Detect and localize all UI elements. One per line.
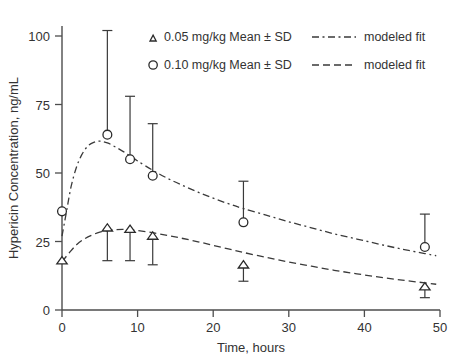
legend: 0.05 mg/kg Mean ± SD modeled fit 0.10 mg… — [149, 30, 426, 72]
legend-label-1: 0.10 mg/kg Mean ± SD — [164, 58, 292, 72]
x-axis-tick-labels: 0 10 20 30 40 50 — [58, 320, 447, 335]
legend-entry-1[interactable]: 0.10 mg/kg Mean ± SD modeled fit — [149, 58, 426, 72]
circle-marker — [149, 61, 157, 69]
y-axis-group: 100 75 50 25 0 Hypericin Concentration, … — [6, 26, 62, 318]
x-tick-label-30: 30 — [282, 320, 296, 335]
data-point-circle[interactable] — [239, 218, 248, 227]
x-tick-label-10: 10 — [130, 320, 144, 335]
legend-fit-label-1: modeled fit — [364, 58, 426, 72]
x-tick-label-20: 20 — [206, 320, 220, 335]
x-tick-label-0: 0 — [58, 320, 65, 335]
y-axis-tick-labels: 100 75 50 25 0 — [28, 29, 50, 318]
data-point-circle[interactable] — [126, 155, 135, 164]
data-point-triangle[interactable] — [148, 232, 158, 239]
data-point-triangle[interactable] — [420, 283, 430, 290]
data-point-circle[interactable] — [148, 171, 157, 180]
fit-curves-layer — [62, 141, 436, 284]
data-point-triangle[interactable] — [102, 224, 112, 231]
y-axis-ticks — [55, 36, 62, 310]
data-point-triangle[interactable] — [125, 225, 135, 232]
fit-curve-1 — [62, 229, 436, 284]
y-tick-label-75: 75 — [36, 98, 50, 113]
pharmacokinetic-chart-figure: 100 75 50 25 0 Hypericin Concentration, … — [0, 0, 459, 361]
y-tick-label-50: 50 — [36, 166, 50, 181]
data-point-circle[interactable] — [103, 130, 112, 139]
y-axis-title: Hypericin Concentration, ng/mL — [6, 77, 21, 259]
data-point-circle[interactable] — [58, 207, 67, 216]
y-tick-label-25: 25 — [36, 235, 50, 250]
data-point-circle[interactable] — [420, 243, 429, 252]
legend-entry-0[interactable]: 0.05 mg/kg Mean ± SD modeled fit — [150, 30, 426, 44]
chart-plot-area: 100 75 50 25 0 Hypericin Concentration, … — [0, 0, 459, 361]
y-tick-label-0: 0 — [43, 303, 50, 318]
x-axis-group: 0 10 20 30 40 50 Time, hours — [58, 310, 447, 355]
x-tick-label-50: 50 — [433, 320, 447, 335]
x-axis-title: Time, hours — [217, 340, 286, 355]
x-tick-label-40: 40 — [357, 320, 371, 335]
legend-label-0: 0.05 mg/kg Mean ± SD — [164, 30, 292, 44]
fit-curve-0 — [62, 141, 436, 256]
data-point-triangle[interactable] — [238, 261, 248, 268]
x-axis-ticks — [62, 310, 440, 317]
y-tick-label-100: 100 — [28, 29, 50, 44]
legend-fit-label-0: modeled fit — [364, 30, 426, 44]
triangle-marker — [150, 35, 156, 41]
